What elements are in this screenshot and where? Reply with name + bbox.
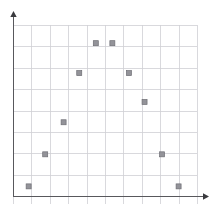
- data-point: [93, 41, 98, 46]
- data-point: [43, 152, 48, 157]
- grid-vertical-lines: [14, 25, 198, 204]
- scatter-plot-figure: [0, 0, 214, 206]
- y-axis-arrow-icon: [10, 11, 16, 17]
- data-point: [176, 184, 181, 189]
- x-axis-arrow-icon: [203, 193, 209, 199]
- data-point: [160, 152, 165, 157]
- plot-canvas: [0, 0, 214, 206]
- grid-horizontal-lines: [13, 26, 197, 197]
- data-point: [126, 71, 131, 76]
- data-point: [26, 184, 31, 189]
- data-point: [77, 71, 82, 76]
- data-point-markers: [26, 41, 181, 189]
- data-point: [110, 41, 115, 46]
- data-point: [61, 120, 66, 125]
- data-point: [142, 99, 147, 104]
